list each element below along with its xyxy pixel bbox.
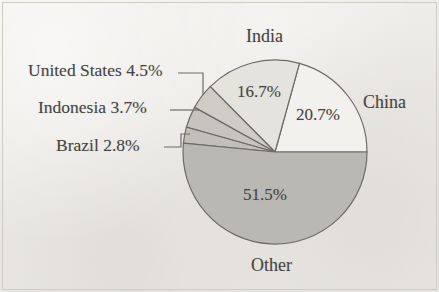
- callout-indonesia: Indonesia 3.7%: [38, 99, 147, 117]
- callout-united-states: United States 4.5%: [28, 62, 163, 80]
- callout-brazil: Brazil 2.8%: [56, 137, 140, 155]
- pie-chart-figure: India China Other United States 4.5% Ind…: [0, 0, 439, 292]
- slice-value-china: 20.7%: [296, 106, 340, 123]
- slice-value-india: 16.7%: [237, 83, 281, 100]
- leader-line-united-states: [178, 73, 203, 95]
- slice-value-other: 51.5%: [243, 186, 287, 203]
- slice-name-india: India: [246, 27, 283, 45]
- slice-name-china: China: [363, 93, 406, 111]
- slice-name-other: Other: [251, 256, 292, 274]
